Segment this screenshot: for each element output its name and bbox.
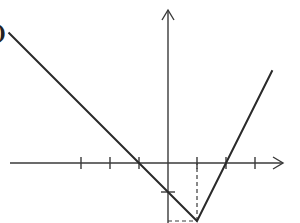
function-graph [0,0,300,223]
function-line [9,33,273,222]
